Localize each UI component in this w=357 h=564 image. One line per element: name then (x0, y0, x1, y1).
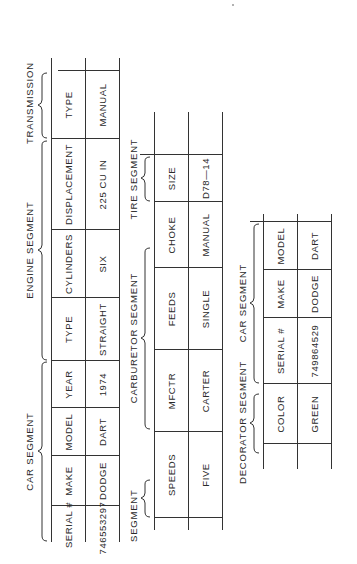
carburetor-segment-label: CARBURETOR SEGMENT (128, 246, 139, 430)
decorator-segment-brace-icon (250, 392, 260, 454)
tire-segment-label: TIRE SEGMENT (128, 129, 139, 229)
value-speeds: FIVE (188, 432, 222, 518)
table-bottom-border (331, 214, 332, 469)
header-size: SIZE (154, 155, 188, 202)
transmission-brace-icon (38, 71, 48, 139)
rotated-figure: SERIAL # MAKE MODEL YEAR TYPE CYLINDERS … (0, 0, 357, 564)
car-segment-label: CAR SEGMENT (24, 361, 35, 542)
engine-segment-brace-icon (38, 139, 48, 361)
value-engine-type: STRAIGHT (85, 298, 119, 361)
engine-segment-label: ENGINE SEGMENT (24, 139, 35, 361)
header-serial-2: SERIAL # (263, 318, 297, 384)
car-segment-2-brace-icon (250, 222, 260, 384)
value-serial-2: 749864529 (297, 318, 331, 384)
scan-speck (232, 4, 234, 6)
table-bottom-border (222, 112, 223, 530)
header-model-2: MODEL (263, 222, 297, 270)
header-cylinders: CYLINDERS (51, 230, 85, 298)
value-year: 1974 (85, 361, 119, 408)
transmission-label: TRANSMISSION (24, 66, 35, 144)
header-year: YEAR (51, 361, 85, 408)
value-choke: MANUAL (188, 202, 222, 268)
header-feeds: FEEDS (154, 268, 188, 350)
header-choke: CHOKE (154, 202, 188, 268)
transmission-segment-brace-icon (141, 478, 151, 518)
value-mfctr: CARTER (188, 350, 222, 432)
header-displacement: DISPLACEMENT (51, 139, 85, 230)
table-bottom-border (119, 58, 120, 542)
header-make-2: MAKE (263, 270, 297, 318)
header-serial: SERIAL # (51, 506, 85, 544)
value-make-2: DODGE (297, 270, 331, 318)
value-model: DART (85, 408, 119, 456)
carburetor-segment-brace-icon (141, 246, 151, 430)
header-model: MODEL (51, 408, 85, 456)
value-make: DODGE (85, 456, 119, 506)
header-color: COLOR (263, 384, 297, 444)
value-displacement: 225 CU IN (85, 139, 119, 230)
header-mfctr: MFCTR (154, 350, 188, 432)
car-segment-brace-icon (38, 361, 48, 542)
value-size: D78—14 (188, 155, 222, 202)
header-transmission-type: TYPE (51, 71, 85, 139)
value-model-2: DART (297, 222, 331, 270)
value-transmission-type: MANUAL (85, 71, 119, 139)
header-speeds: SPEEDS (154, 432, 188, 518)
segment-label: SEGMENT (128, 462, 139, 542)
car-segment-2-label: CAR SEGMENT (237, 222, 248, 384)
value-serial: 746553297 (85, 506, 119, 550)
value-cylinders: SIX (85, 230, 119, 298)
value-color: GREEN (297, 384, 331, 444)
header-make: MAKE (51, 456, 85, 506)
value-feeds: SINGLE (188, 268, 222, 350)
header-engine-type: TYPE (51, 298, 85, 361)
tire-segment-brace-icon (141, 155, 151, 202)
